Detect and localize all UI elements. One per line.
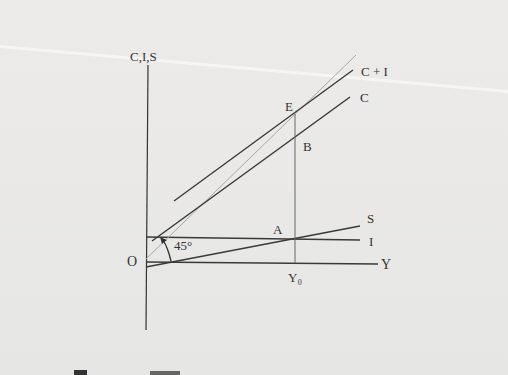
caption-fragment — [150, 371, 180, 375]
caption-fragment — [74, 370, 87, 375]
consumption-plus-investment-line — [174, 70, 353, 201]
angle-label: 45° — [174, 238, 192, 253]
y-axis — [146, 65, 148, 330]
point-a-label: A — [273, 222, 283, 237]
s-label: S — [367, 211, 374, 226]
keynesian-cross-diagram: C,I,S Y O C + I C S I 45° E B A Y₀ — [0, 0, 508, 375]
y-axis-label: C,I,S — [130, 49, 157, 64]
point-e-label: E — [285, 99, 293, 114]
diagram-page: C,I,S Y O C + I C S I 45° E B A Y₀ — [0, 0, 508, 375]
x-axis-label: Y — [381, 257, 391, 272]
consumption-line — [152, 97, 350, 241]
angle-arc-icon — [163, 240, 171, 261]
x-axis — [146, 262, 378, 264]
45-degree-line — [146, 55, 356, 259]
i-label: I — [369, 234, 373, 249]
c-label: C — [360, 90, 369, 105]
y0-label: Y₀ — [288, 270, 302, 285]
arrowhead-icon — [160, 237, 167, 244]
c-plus-i-label: C + I — [361, 64, 388, 79]
origin-label: O — [127, 254, 137, 269]
point-b-label: B — [303, 139, 312, 154]
